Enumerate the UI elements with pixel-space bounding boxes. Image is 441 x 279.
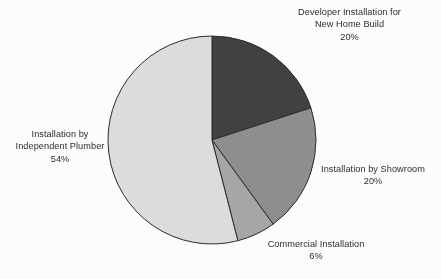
pie-label-installation-by-showroom: Installation by Showroom 20% — [305, 163, 441, 188]
pie-label-developer-line1: Developer Installation for — [262, 6, 437, 18]
pie-label-commercial-line1: Commercial Installation — [240, 238, 392, 250]
pie-label-showroom-value: 20% — [305, 175, 441, 187]
pie-slices-group — [108, 36, 316, 244]
pie-label-developer-line2: New Home Build — [262, 18, 437, 30]
pie-label-independent-plumber: Installation by Independent Plumber 54% — [4, 128, 116, 165]
pie-label-plumber-line2: Independent Plumber — [4, 140, 116, 152]
pie-label-commercial-value: 6% — [240, 250, 392, 262]
pie-label-plumber-line1: Installation by — [4, 128, 116, 140]
pie-chart-figure: Developer Installation for New Home Buil… — [0, 0, 441, 279]
pie-label-commercial-installation: Commercial Installation 6% — [240, 238, 392, 263]
pie-label-plumber-value: 54% — [4, 153, 116, 165]
pie-label-showroom-line1: Installation by Showroom — [305, 163, 441, 175]
pie-label-developer-installation: Developer Installation for New Home Buil… — [262, 6, 437, 43]
pie-label-developer-value: 20% — [262, 31, 437, 43]
